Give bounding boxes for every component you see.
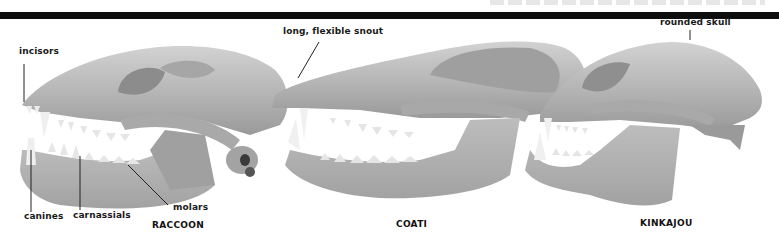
specimen-name-coati: COATI (396, 219, 427, 229)
raccoon-skull (20, 46, 288, 208)
label-rounded-skull: rounded skull (660, 17, 731, 27)
label-incisors: incisors (19, 46, 59, 56)
label-carnassials: carnassials (73, 210, 131, 220)
label-snout: long, flexible snout (283, 26, 383, 36)
specimen-name-kinkajou: KINKAJOU (640, 218, 693, 228)
label-canines: canines (24, 211, 63, 221)
specimen-name-raccoon: RACCOON (152, 220, 204, 230)
skull-illustration (0, 0, 779, 241)
snout-leader (298, 42, 319, 78)
label-molars: molars (173, 202, 208, 212)
